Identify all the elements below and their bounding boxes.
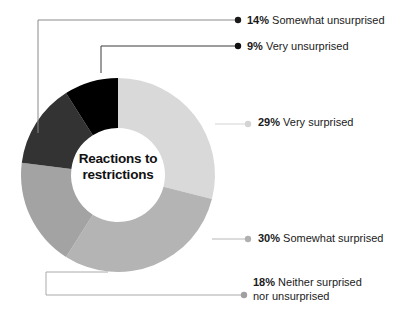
- legend-percent: 18%: [253, 276, 275, 288]
- donut-chart: Reactions to restrictions 29% Very surpr…: [0, 0, 400, 316]
- chart-center-title: Reactions to restrictions: [58, 151, 178, 183]
- donut-slice-somewhat-surprised[interactable]: [66, 187, 212, 272]
- legend-label-very-unsurprised[interactable]: 9% Very unsurprised: [247, 40, 349, 54]
- center-title-line-1: Reactions to: [79, 151, 158, 166]
- legend-label-very-surprised[interactable]: 29% Very surprised: [258, 116, 353, 130]
- legend-text: Somewhat unsurprised: [272, 14, 385, 26]
- legend-percent: 9%: [247, 40, 263, 52]
- legend-label-neither[interactable]: 18% Neither surprised nor unsurprised: [253, 276, 362, 303]
- legend-label-somewhat-surprised[interactable]: 30% Somewhat surprised: [258, 232, 383, 246]
- leader-dot-somewhat-surprised: [245, 236, 251, 242]
- leader-dot-very-unsurprised: [235, 43, 241, 49]
- leader-line-very-unsurprised: [101, 46, 235, 73]
- legend-text: Somewhat surprised: [283, 232, 383, 244]
- legend-percent: 14%: [247, 14, 269, 26]
- legend-text: Very unsurprised: [266, 40, 349, 52]
- leader-line-neither: [46, 272, 241, 295]
- legend-percent: 30%: [258, 232, 280, 244]
- center-title-line-2: restrictions: [82, 167, 153, 182]
- legend-percent: 29%: [258, 116, 280, 128]
- leader-dot-neither: [241, 292, 247, 298]
- legend-text-line-2: nor unsurprised: [253, 290, 362, 304]
- legend-text: Very surprised: [283, 116, 353, 128]
- leader-dot-somewhat-unsurprised: [235, 17, 241, 23]
- legend-text: Neither surprised: [278, 276, 362, 288]
- leader-dot-very-surprised: [245, 121, 251, 127]
- legend-label-somewhat-unsurprised[interactable]: 14% Somewhat unsurprised: [247, 14, 385, 28]
- leader-dots: [235, 17, 251, 298]
